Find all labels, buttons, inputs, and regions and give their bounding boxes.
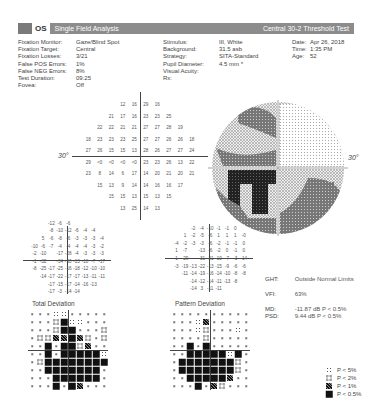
p05-symbol-icon bbox=[93, 375, 100, 382]
normal-dot-icon bbox=[237, 345, 239, 347]
normal-dot-icon bbox=[55, 353, 57, 355]
info-value: SITA-Standard bbox=[219, 53, 258, 60]
normal-dot-icon bbox=[181, 353, 183, 355]
normal-dot-icon bbox=[103, 369, 105, 371]
grid-value: 14 bbox=[143, 171, 148, 176]
info-key: Fixation Target: bbox=[18, 46, 76, 53]
normal-dot-icon bbox=[245, 361, 247, 363]
info-row: Stimulus:III, White bbox=[163, 39, 258, 46]
grid-value: -13 bbox=[198, 248, 205, 253]
normal-dot-icon bbox=[237, 337, 239, 339]
grid-value: <0 bbox=[97, 159, 102, 164]
p2-symbol-icon bbox=[78, 344, 83, 349]
grid-value: -10 bbox=[56, 228, 63, 233]
grid-value: -16 bbox=[207, 271, 214, 276]
grid-value: 16 bbox=[155, 182, 160, 187]
total-deviation-caption: Total Deviation bbox=[32, 300, 75, 307]
grid-value: 27 bbox=[143, 136, 148, 141]
normal-dot-icon bbox=[39, 353, 41, 355]
normal-dot-icon bbox=[39, 329, 41, 331]
p5-symbol-icon bbox=[77, 319, 83, 325]
normal-dot-icon bbox=[245, 377, 247, 379]
grid-value: 24 bbox=[189, 148, 194, 153]
grid-value: 14 bbox=[132, 182, 137, 187]
info-row: Time:1:35 PM bbox=[292, 46, 344, 53]
p05-symbol-icon bbox=[69, 351, 76, 358]
p05-symbol-icon bbox=[53, 383, 60, 390]
horizontal-axis bbox=[72, 156, 208, 157]
p05-symbol-icon bbox=[77, 351, 84, 358]
grid-value: 27 bbox=[178, 148, 183, 153]
p5-symbol-icon bbox=[195, 319, 201, 325]
legend-item: P < 1% bbox=[326, 382, 361, 390]
normal-dot-icon bbox=[39, 313, 41, 315]
grid-value: -2 bbox=[191, 225, 195, 230]
normal-dot-icon bbox=[245, 385, 247, 387]
grid-value: -11 bbox=[207, 286, 213, 291]
info-left: Fixation Monitor:Gaze/Blind SpotFixation… bbox=[18, 39, 119, 89]
grid-value: 15 bbox=[97, 182, 102, 187]
grid-value: -3 bbox=[83, 251, 87, 256]
grid-value: -15 bbox=[215, 263, 222, 268]
p05-symbol-icon bbox=[203, 367, 210, 374]
grid-value: 23 bbox=[86, 171, 91, 176]
grid-value: 22 bbox=[97, 125, 102, 130]
p05-symbol-icon bbox=[211, 351, 218, 358]
normal-dot-icon bbox=[245, 369, 247, 371]
grid-value: 23 bbox=[155, 113, 160, 118]
normal-dot-icon bbox=[229, 385, 231, 387]
grid-value: 23 bbox=[143, 159, 148, 164]
p1-symbol-icon bbox=[77, 335, 83, 341]
info-value: Off bbox=[76, 82, 84, 89]
info-row: Age:52 bbox=[292, 53, 344, 60]
grid-value: -14 bbox=[65, 289, 72, 294]
grid-value: 18 bbox=[189, 136, 194, 141]
grid-value: -5 bbox=[200, 233, 204, 238]
grid-value: -7 bbox=[183, 248, 187, 253]
grid-value: -3 bbox=[200, 240, 204, 245]
info-value: 52 bbox=[310, 53, 317, 60]
grid-value: -9 bbox=[225, 263, 229, 268]
p2-symbol-icon bbox=[54, 320, 59, 325]
normal-dot-icon bbox=[173, 345, 175, 347]
normal-dot-icon bbox=[87, 313, 89, 315]
normal-dot-icon bbox=[221, 321, 223, 323]
grid-value: 21 bbox=[166, 171, 171, 176]
normal-dot-icon bbox=[197, 313, 199, 315]
grid-value: -2 bbox=[100, 243, 104, 248]
psd-value: 9.44 dB P < 0.5% bbox=[295, 313, 342, 319]
grid-value: -14 bbox=[215, 271, 222, 276]
info-key: False NEG Errors: bbox=[18, 68, 76, 75]
grid-value: 14 bbox=[109, 171, 114, 176]
p1-symbol-icon bbox=[326, 383, 332, 389]
grayscale-plot bbox=[208, 98, 348, 238]
grid-value: -11 bbox=[182, 271, 188, 276]
grid-value: -11 bbox=[99, 274, 105, 279]
grid-value: 21 bbox=[120, 125, 125, 130]
grid-value: -13 bbox=[190, 263, 197, 268]
normal-dot-icon bbox=[39, 385, 41, 387]
normal-dot-icon bbox=[229, 329, 231, 331]
grid-value: 26 bbox=[166, 136, 171, 141]
info-row: False NEG Errors:8% bbox=[18, 68, 119, 75]
grid-value: 19 bbox=[178, 125, 183, 130]
grid-value: -4 bbox=[58, 243, 62, 248]
normal-dot-icon bbox=[103, 321, 105, 323]
p05-symbol-icon bbox=[85, 359, 92, 366]
p05-symbol-icon bbox=[211, 359, 218, 366]
normal-dot-icon bbox=[31, 361, 33, 363]
grid-value: 25 bbox=[166, 113, 171, 118]
grid-value: -16 bbox=[82, 281, 89, 286]
normal-dot-icon bbox=[95, 329, 97, 331]
grid-value: -2 bbox=[191, 233, 195, 238]
normal-dot-icon bbox=[31, 313, 33, 315]
normal-dot-icon bbox=[229, 313, 231, 315]
grid-value: -4 bbox=[75, 243, 79, 248]
grid-value: -8 bbox=[233, 271, 237, 276]
p05-symbol-icon bbox=[211, 367, 218, 374]
normal-dot-icon bbox=[31, 321, 33, 323]
info-key: Strategy: bbox=[163, 53, 219, 60]
p5-symbol-icon bbox=[101, 351, 107, 357]
grid-value: -3 bbox=[75, 236, 79, 241]
normal-dot-icon bbox=[31, 385, 33, 387]
